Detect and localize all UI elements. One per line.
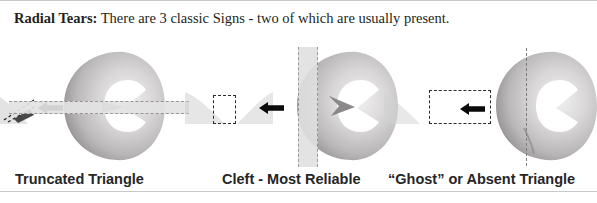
cleft-dashed-box bbox=[213, 95, 236, 124]
vertical-dashed-band bbox=[298, 47, 318, 167]
figure-header: Radial Tears: There are 3 classic Signs … bbox=[14, 10, 589, 27]
panel-cleft-most-reliable bbox=[199, 46, 398, 170]
caption-divider-rule bbox=[0, 191, 597, 192]
caption-truncated-triangle: Truncated Triangle bbox=[15, 171, 144, 189]
panel-truncated-triangle bbox=[0, 46, 199, 170]
meniscus-shape bbox=[494, 50, 597, 162]
caption-cleft-most-reliable: Cleft - Most Reliable bbox=[222, 171, 361, 189]
radial-tears-figure: Radial Tears: There are 3 classic Signs … bbox=[0, 0, 597, 203]
left-arrow-icon bbox=[259, 101, 284, 115]
left-arrow-icon bbox=[460, 102, 485, 116]
vertical-dashed-line bbox=[526, 48, 527, 166]
wedge-icon-left bbox=[384, 94, 420, 126]
horizontal-dashed-band bbox=[9, 101, 189, 114]
caption-ghost-absent-triangle: “Ghost” or Absent Triangle bbox=[388, 171, 575, 189]
header-body-text: There are 3 classic Signs - two of which… bbox=[97, 10, 449, 26]
header-lead-label: Radial Tears: bbox=[14, 10, 97, 26]
panel-ghost-absent-triangle bbox=[398, 46, 597, 170]
